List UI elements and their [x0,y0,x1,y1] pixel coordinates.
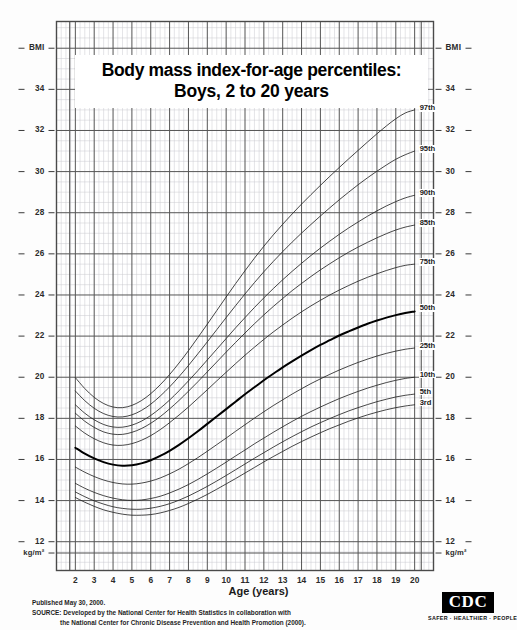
y-tick-left-24: 24 [35,290,45,299]
y-axis-unit-right: kg/m² [446,548,467,557]
y-tick-right-28: 28 [446,208,456,217]
cdc-logo-mark: CDC [442,592,494,613]
x-tick-8: 8 [178,575,198,585]
x-tick-13: 13 [273,575,293,585]
x-tick-2: 2 [65,575,85,585]
x-tick-17: 17 [348,575,368,585]
x-tick-12: 12 [254,575,274,585]
y-axis-header-right: BMI [446,43,462,52]
percentile-label-3rd: 3rd [419,399,433,407]
y-tick-left-30: 30 [35,167,45,176]
percentile-label-97th: 97th [419,104,437,112]
x-tick-16: 16 [329,575,349,585]
y-tick-right-22: 22 [446,331,456,340]
x-tick-7: 7 [160,575,180,585]
x-tick-18: 18 [367,575,387,585]
y-tick-left-22: 22 [35,331,45,340]
cdc-logo: CDC SAFER · HEALTHIER · PEOPLE™ [428,592,508,621]
y-axis-header-left: BMI [29,43,45,52]
y-tick-right-30: 30 [446,167,456,176]
percentile-label-90th: 90th [419,189,437,197]
x-tick-15: 15 [310,575,330,585]
y-tick-left-16: 16 [35,454,45,463]
y-tick-left-28: 28 [35,208,45,217]
y-tick-left-20: 20 [35,372,45,381]
y-axis-unit-left: kg/m² [23,548,44,557]
chart-title-line1: Body mass index-for-age percentiles: [79,60,424,81]
x-tick-4: 4 [103,575,123,585]
x-tick-5: 5 [122,575,142,585]
x-tick-14: 14 [292,575,312,585]
percentile-label-50th: 50th [419,304,437,312]
percentile-label-85th: 85th [419,219,437,227]
x-tick-3: 3 [84,575,104,585]
y-tick-right-18: 18 [446,413,456,422]
y-tick-left-14: 14 [35,496,45,505]
footer-source-line1: SOURCE: Developed by the National Center… [32,608,402,618]
x-tick-10: 10 [216,575,236,585]
y-tick-right-20: 20 [446,372,456,381]
y-tick-right-26: 26 [446,249,456,258]
footer-source-line2: the National Center for Chronic Disease … [32,618,402,628]
percentile-label-5th: 5th [419,388,432,396]
y-tick-right-34: 34 [446,84,456,93]
y-tick-right-32: 32 [446,125,456,134]
percentile-label-10th: 10th [419,371,437,379]
y-tick-right-12: 12 [446,537,456,546]
bmi-growth-chart: Body mass index-for-age percentiles: Boy… [0,0,517,630]
y-tick-left-34: 34 [35,84,45,93]
chart-footer: Published May 30, 2000. SOURCE: Develope… [32,598,402,628]
percentile-label-25th: 25th [419,342,437,350]
y-tick-right-24: 24 [446,290,456,299]
x-tick-11: 11 [235,575,255,585]
y-tick-left-18: 18 [35,413,45,422]
footer-published: Published May 30, 2000. [32,598,402,608]
y-tick-right-14: 14 [446,496,456,505]
x-tick-19: 19 [386,575,406,585]
x-tick-6: 6 [141,575,161,585]
percentile-label-75th: 75th [419,258,437,266]
y-tick-left-32: 32 [35,125,45,134]
chart-title: Body mass index-for-age percentiles: Boy… [75,55,428,108]
chart-title-line2: Boys, 2 to 20 years [79,81,424,102]
y-tick-left-26: 26 [35,249,45,258]
percentile-label-95th: 95th [419,145,437,153]
y-tick-right-16: 16 [446,454,456,463]
cdc-logo-tagline: SAFER · HEALTHIER · PEOPLE™ [428,615,508,621]
x-tick-20: 20 [405,575,425,585]
y-tick-left-12: 12 [35,537,45,546]
chart-page: Body mass index-for-age percentiles: Boy… [0,0,517,630]
x-tick-9: 9 [197,575,217,585]
